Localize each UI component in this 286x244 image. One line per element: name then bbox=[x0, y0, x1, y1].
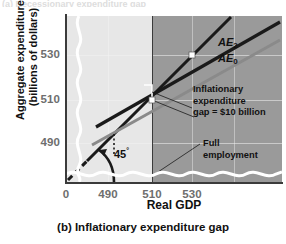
figure-inflationary-expenditure-gap: (a) Recessionary expenditure gap bbox=[0, 0, 286, 244]
annotation-gap-line3: gap = $10 billion bbox=[193, 107, 266, 119]
annotation-degree-symbol: ° bbox=[126, 147, 129, 154]
annotation-fe-line1: Full bbox=[203, 138, 258, 150]
y-axis-title: Aggregate expenditures (billions of doll… bbox=[14, 0, 40, 132]
series-label-ae2: AE2 bbox=[218, 36, 238, 48]
annotation-full-employment: Full employment bbox=[203, 138, 258, 161]
series-label-ae0-subscript: 0 bbox=[233, 57, 237, 66]
series-label-ae0-text: AE bbox=[218, 52, 233, 64]
x-axis-line bbox=[65, 182, 283, 184]
series-label-ae2-text: AE bbox=[218, 36, 233, 48]
series-label-ae2-subscript: 2 bbox=[233, 41, 237, 50]
marker-equilibrium-above-potential bbox=[189, 52, 195, 58]
annotation-inflationary-gap: Inflationary expenditure gap = $10 billi… bbox=[193, 84, 266, 119]
marker-full-employment-equilibrium bbox=[149, 97, 155, 103]
annotation-fe-line2: employment bbox=[203, 150, 258, 162]
angle-arc bbox=[99, 150, 114, 182]
y-axis-title-line2: (billions of dollars) bbox=[27, 0, 40, 132]
series-label-ae0: AE0 bbox=[218, 52, 238, 64]
annotation-45-degree-number: 45 bbox=[114, 148, 126, 160]
leader-line-gap bbox=[152, 92, 192, 108]
y-axis-title-line1: Aggregate expenditures bbox=[14, 0, 27, 132]
annotation-gap-line1: Inflationary bbox=[193, 84, 266, 96]
annotation-gap-line2: expenditure bbox=[193, 96, 266, 108]
figure-caption: (b) Inflationary expenditure gap bbox=[0, 221, 286, 233]
leader-line-full-employment bbox=[152, 144, 200, 176]
y-tick-490-label: 490 bbox=[41, 136, 61, 148]
y-tick-530-label: 530 bbox=[41, 48, 61, 60]
x-axis-title: Real GDP bbox=[66, 198, 282, 212]
line-45-degree-dashed-tail bbox=[68, 160, 88, 180]
y-axis-line bbox=[65, 14, 67, 184]
annotation-45-degree: 45° bbox=[114, 147, 129, 160]
y-tick-510-label: 510 bbox=[41, 93, 61, 105]
